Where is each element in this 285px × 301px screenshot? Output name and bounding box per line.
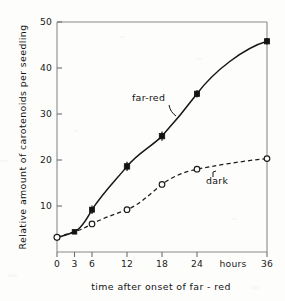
far-red-point-6h <box>90 207 95 212</box>
far-red-annotation-label: far-red <box>132 92 165 103</box>
far-red-point-36h <box>264 39 269 44</box>
y-tick-label-30: 30 <box>40 108 52 119</box>
x-axis-ticks <box>57 252 267 257</box>
x-tick-label-12: 12 <box>121 258 133 269</box>
far-red-point-18h <box>159 133 164 138</box>
x-axis-unit-label: hours <box>220 258 247 269</box>
x-tick-label-18: 18 <box>156 258 168 269</box>
dark-annotation-label: dark <box>206 175 228 186</box>
dark-point-24h <box>194 166 200 172</box>
far-red-point-24h <box>194 91 199 96</box>
far-red-point-12h <box>124 164 129 169</box>
dark-point-6h <box>89 221 95 227</box>
y-tick-label-50: 50 <box>40 16 52 27</box>
y-tick-label-20: 20 <box>40 154 52 165</box>
y-tick-label-10: 10 <box>40 200 52 211</box>
x-tick-label-24: 24 <box>191 258 203 269</box>
dark-point-0h <box>54 234 60 240</box>
y-axis-tick-labels: 50 40 30 20 10 <box>40 16 52 211</box>
x-tick-label-3: 3 <box>71 258 77 269</box>
far-red-leader-line <box>169 105 176 116</box>
far-red-annotation: far-red <box>132 92 176 116</box>
dark-series-markers <box>54 156 270 241</box>
y-axis-title: Relative amount of carotenoids per seedl… <box>17 24 28 249</box>
x-axis-title: time after onset of far - red <box>91 281 231 292</box>
y-axis-ticks <box>57 22 62 206</box>
dark-point-36h <box>264 156 270 162</box>
far-red-error-bars <box>75 38 268 234</box>
dark-series-line <box>57 159 267 238</box>
x-axis-tick-labels: 0 3 6 12 18 24 36 hours <box>54 258 273 269</box>
figure-container: 50 40 30 20 10 0 3 6 12 18 24 36 hours <box>0 0 285 301</box>
dark-point-18h <box>159 182 165 188</box>
y-tick-label-40: 40 <box>40 62 52 73</box>
dark-annotation: dark <box>206 171 228 186</box>
x-tick-label-36: 36 <box>261 258 273 269</box>
x-tick-label-6: 6 <box>89 258 95 269</box>
dark-point-12h <box>124 207 130 213</box>
far-red-series-markers <box>72 39 269 234</box>
far-red-point-3h <box>72 230 77 235</box>
carotenoid-accumulation-chart: 50 40 30 20 10 0 3 6 12 18 24 36 hours <box>0 0 285 301</box>
x-tick-label-0: 0 <box>54 258 60 269</box>
